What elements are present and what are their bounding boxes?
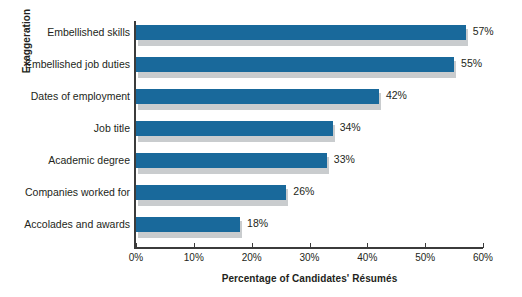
- bar-value-label: 34%: [340, 120, 361, 135]
- bar-value-label: 57%: [473, 24, 494, 39]
- bar-track: 18%: [136, 217, 483, 239]
- x-tick-mark: [425, 243, 426, 248]
- bar: [136, 25, 466, 40]
- category-label: Academic degree: [0, 154, 130, 166]
- bar: [136, 89, 379, 104]
- category-label: Companies worked for: [0, 186, 130, 198]
- bar-value-label: 33%: [334, 152, 355, 167]
- bar: [136, 153, 327, 168]
- bar: [136, 57, 454, 72]
- x-tick-label: 30%: [290, 252, 330, 264]
- x-tick-label: 20%: [232, 252, 272, 264]
- bar: [136, 121, 333, 136]
- bar-value-label: 55%: [461, 56, 482, 71]
- x-tick-mark: [310, 243, 311, 248]
- bar-track: 42%: [136, 89, 483, 111]
- plot-area: 57%55%42%34%33%26%18%: [136, 22, 483, 248]
- bar-track: 26%: [136, 185, 483, 207]
- x-tick-label: 60%: [463, 252, 503, 264]
- x-tick-mark: [367, 243, 368, 248]
- bar-track: 33%: [136, 153, 483, 175]
- bar-row: 33%: [136, 153, 483, 185]
- y-axis-title: Exaggeration: [20, 0, 34, 96]
- x-axis-title: Percentage of Candidates' Résumés: [136, 273, 483, 284]
- x-tick-mark: [252, 243, 253, 248]
- x-tick-mark: [483, 243, 484, 248]
- bar-value-label: 26%: [293, 184, 314, 199]
- x-tick-label: 10%: [174, 252, 214, 264]
- bar-row: 26%: [136, 185, 483, 217]
- bar-row: 42%: [136, 89, 483, 121]
- category-label: Embellished skills: [0, 26, 130, 38]
- bar-chart: Exaggeration 57%55%42%34%33%26%18% Perce…: [0, 0, 522, 297]
- category-label: Dates of employment: [0, 90, 130, 102]
- bar-track: 57%: [136, 25, 483, 47]
- bar: [136, 185, 286, 200]
- category-label: Embellished job duties: [0, 58, 130, 70]
- bar-track: 34%: [136, 121, 483, 143]
- x-tick-mark: [194, 243, 195, 248]
- bar-row: 57%: [136, 25, 483, 57]
- category-label: Job title: [0, 122, 130, 134]
- category-label: Accolades and awards: [0, 218, 130, 230]
- bar-row: 55%: [136, 57, 483, 89]
- x-tick-label: 0%: [116, 252, 156, 264]
- x-tick-label: 50%: [405, 252, 445, 264]
- bar-row: 34%: [136, 121, 483, 153]
- bar-value-label: 42%: [386, 88, 407, 103]
- bar-track: 55%: [136, 57, 483, 79]
- bar-value-label: 18%: [247, 216, 268, 231]
- x-tick-label: 40%: [347, 252, 387, 264]
- bar: [136, 217, 240, 232]
- x-tick-mark: [136, 243, 137, 248]
